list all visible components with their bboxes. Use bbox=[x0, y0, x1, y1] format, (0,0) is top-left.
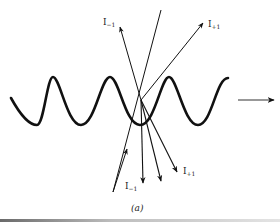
label-lower-right: I+1 bbox=[183, 166, 195, 177]
transmitted-zero-arrow bbox=[141, 100, 161, 181]
transmitted-minus1-arrow bbox=[141, 100, 143, 183]
label-upper-left: I−1 bbox=[103, 17, 115, 28]
transmitted-plus1-arrow bbox=[141, 100, 177, 172]
diffraction-diagram: I−1 I+1 I−1 I+1 (a) bbox=[0, 0, 280, 222]
incident-ray bbox=[113, 10, 161, 192]
reflected-minus1-arrow bbox=[120, 27, 141, 100]
label-lower-left: I−1 bbox=[125, 181, 137, 192]
surface-wave bbox=[11, 77, 228, 125]
bottom-rule bbox=[0, 219, 280, 222]
figure-caption: (a) bbox=[131, 203, 144, 213]
label-upper-right: I+1 bbox=[208, 19, 220, 30]
reflected-plus1-arrow bbox=[141, 23, 203, 100]
